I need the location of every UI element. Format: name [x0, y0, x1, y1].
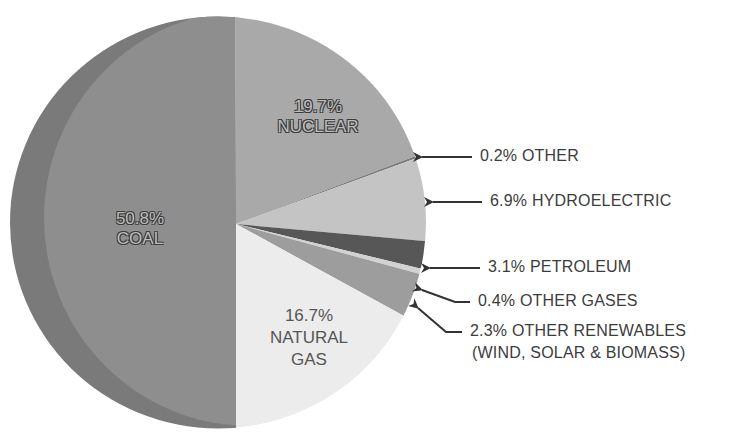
callout-other-renewables-2: (WIND, SOLAR & BIOMASS): [472, 344, 686, 362]
label-natural-gas-name1: NATURAL: [254, 327, 364, 349]
callout-hydroelectric: 6.9% HYDROELECTRIC: [490, 192, 671, 210]
callout-other: 0.2% OTHER: [480, 147, 579, 165]
arrow-other-gases: [422, 290, 470, 302]
label-natural-gas: 16.7% NATURAL GAS: [254, 305, 364, 371]
arrow-other-renewables: [418, 308, 462, 332]
label-natural-gas-name2: GAS: [254, 349, 364, 371]
callout-other-renewables-1: 2.3% OTHER RENEWABLES: [470, 322, 686, 340]
label-nuclear-name: NUCLEAR: [268, 117, 368, 137]
label-coal-name: COAL: [90, 229, 190, 249]
label-coal-pct: 50.8%: [90, 209, 190, 229]
label-nuclear: 19.7% NUCLEAR: [268, 97, 368, 137]
label-natural-gas-pct: 16.7%: [254, 305, 364, 327]
callout-petroleum: 3.1% PETROLEUM: [488, 258, 631, 276]
label-coal: 50.8% COAL: [90, 209, 190, 249]
label-nuclear-pct: 19.7%: [268, 97, 368, 117]
callout-other-gases: 0.4% OTHER GASES: [478, 292, 638, 310]
